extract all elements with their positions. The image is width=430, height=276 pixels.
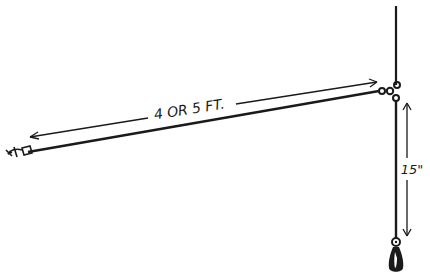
drop-length-label: 15" xyxy=(401,162,424,177)
diagram-canvas: 4 OR 5 FT. 15" xyxy=(0,0,430,276)
sinker-icon xyxy=(389,238,404,272)
